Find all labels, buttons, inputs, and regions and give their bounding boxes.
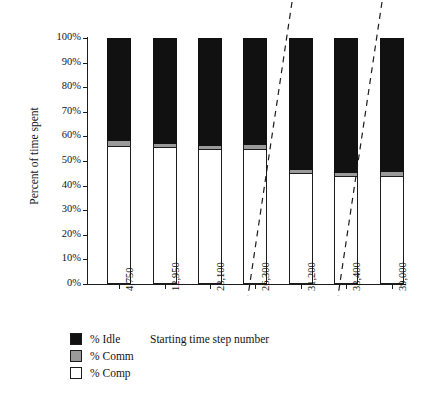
- y-axis-tick-label: 20%: [40, 229, 81, 239]
- x-axis-tick-label: 4,750: [124, 267, 135, 291]
- x-axis-tick-mark: [210, 284, 211, 289]
- legend-swatch-icon: [70, 333, 82, 345]
- y-axis-tick-label: 10%: [40, 253, 81, 263]
- y-axis-tick-label: 50%: [40, 155, 81, 165]
- legend-swatch-icon: [70, 367, 82, 379]
- x-axis-title: Starting time step number: [150, 333, 269, 345]
- y-axis-tick-label: 0%: [40, 278, 81, 288]
- y-axis-tick-label: 70%: [40, 106, 81, 116]
- legend-item[interactable]: % Comp: [70, 364, 134, 381]
- bar-segment-comm[interactable]: [198, 146, 222, 148]
- x-axis-tick-mark: [392, 284, 393, 289]
- legend-item[interactable]: % Comm: [70, 347, 134, 364]
- legend-swatch-icon: [70, 350, 82, 362]
- y-axis-tick-label: 30%: [40, 204, 81, 214]
- y-axis-tick-label: 100%: [40, 32, 81, 42]
- y-axis-tick-label: 40%: [40, 180, 81, 190]
- bar-column[interactable]: [198, 38, 222, 284]
- legend-label: % Idle: [90, 333, 120, 345]
- y-axis-title: Percent of time spent: [28, 76, 40, 236]
- x-axis-tick-label: 39,000: [397, 262, 408, 291]
- legend-label: % Comp: [90, 367, 131, 379]
- chart-figure: Percent of time spent 0%10%20%30%40%50%6…: [0, 0, 435, 397]
- x-axis-tick-label: 33,400: [351, 262, 362, 291]
- bar-column[interactable]: [153, 38, 177, 284]
- bar-segment-comm[interactable]: [107, 141, 131, 146]
- y-axis-tick-label: 80%: [40, 81, 81, 91]
- chart-legend: % Idle% Comm% Comp: [70, 330, 134, 381]
- x-axis-tick-label: 31,200: [306, 262, 317, 291]
- axis-break-line-1: [240, 0, 300, 300]
- legend-item[interactable]: % Idle: [70, 330, 134, 347]
- x-axis-tick-mark: [255, 284, 256, 289]
- x-axis-tick-mark: [119, 284, 120, 289]
- axis-break-line-2: [330, 0, 390, 300]
- x-axis-tick-mark: [346, 284, 347, 289]
- y-axis-tick-label: 60%: [40, 130, 81, 140]
- bar-column[interactable]: [107, 38, 131, 284]
- bar-segment-comp[interactable]: [107, 146, 131, 284]
- y-axis-tick-label: 90%: [40, 57, 81, 67]
- x-axis-tick-mark: [301, 284, 302, 289]
- bar-segment-idle[interactable]: [198, 38, 222, 146]
- x-axis-tick-label: 23,100: [215, 262, 226, 291]
- bar-segment-idle[interactable]: [107, 38, 131, 141]
- x-axis-tick-label: 12,950: [170, 262, 181, 291]
- legend-label: % Comm: [90, 350, 134, 362]
- x-axis-tick-label: 26,300: [260, 262, 271, 291]
- bar-segment-comm[interactable]: [153, 144, 177, 148]
- y-axis-tick-mark: [83, 284, 88, 285]
- bar-segment-idle[interactable]: [153, 38, 177, 144]
- x-axis-tick-mark: [165, 284, 166, 289]
